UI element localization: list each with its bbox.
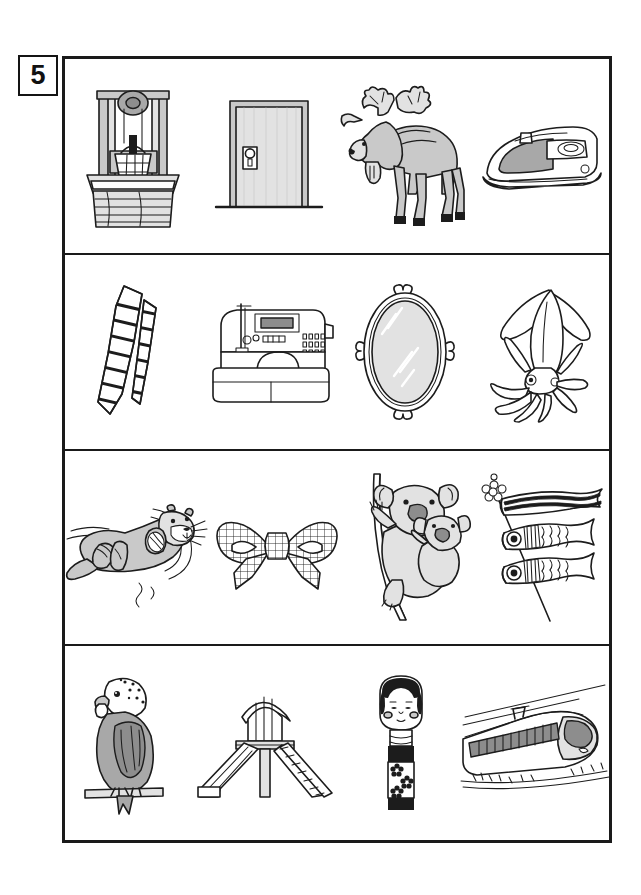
mirror-icon xyxy=(352,282,458,422)
ribbon-bow-icon xyxy=(212,501,342,593)
sewing-machine-icon xyxy=(203,296,335,408)
picture-cell-koala[interactable] xyxy=(344,451,477,645)
iron-icon xyxy=(475,111,607,201)
squid-icon xyxy=(481,282,601,422)
picture-cell-ribbon-bow[interactable] xyxy=(211,451,344,645)
picture-cell-koinobori[interactable] xyxy=(476,451,609,645)
picture-row xyxy=(65,646,609,840)
picture-cell-well[interactable] xyxy=(65,59,201,253)
page-number-text: 5 xyxy=(30,62,45,89)
picture-cell-sea-otter[interactable] xyxy=(65,451,211,645)
sea-otter-icon xyxy=(65,487,211,607)
necktie-icon xyxy=(90,282,176,422)
budgerigar-icon xyxy=(81,668,167,818)
slide-icon xyxy=(182,683,342,803)
kokeshi-doll-icon xyxy=(366,670,436,816)
picture-cell-squid[interactable] xyxy=(473,255,609,449)
picture-cell-kokeshi-doll[interactable] xyxy=(342,646,459,840)
picture-cell-sewing-machine[interactable] xyxy=(201,255,337,449)
picture-cell-moose[interactable] xyxy=(337,59,473,253)
picture-cell-bullet-train[interactable] xyxy=(459,646,609,840)
worksheet-frame xyxy=(62,56,612,843)
koinobori-icon xyxy=(478,471,608,623)
koala-icon xyxy=(348,472,472,622)
moose-icon xyxy=(338,82,472,230)
picture-row xyxy=(65,255,609,451)
door-icon xyxy=(214,95,324,217)
picture-cell-slide[interactable] xyxy=(182,646,342,840)
page-number-badge: 5 xyxy=(18,55,58,96)
well-icon xyxy=(77,81,189,231)
picture-cell-door[interactable] xyxy=(201,59,337,253)
bullet-train-icon xyxy=(459,683,609,803)
picture-cell-necktie[interactable] xyxy=(65,255,201,449)
picture-cell-mirror[interactable] xyxy=(337,255,473,449)
picture-row xyxy=(65,59,609,255)
picture-row xyxy=(65,451,609,647)
picture-cell-iron[interactable] xyxy=(473,59,609,253)
picture-cell-budgerigar[interactable] xyxy=(65,646,182,840)
